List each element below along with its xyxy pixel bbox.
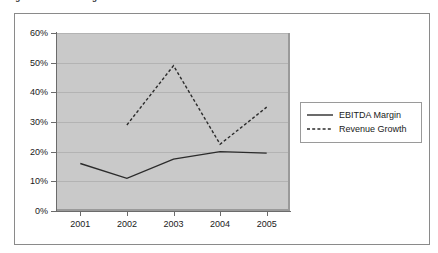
y-axis-tick [51,33,56,34]
legend-item-label: Revenue Growth [339,124,407,134]
chart-series [57,33,290,211]
x-axis-tick-label: 2005 [257,219,277,229]
x-axis-tick-label: 2003 [163,219,183,229]
legend-item[interactable]: Revenue Growth [307,122,415,136]
x-axis-tick [220,212,221,216]
y-axis-tick-label: 60% [2,28,48,38]
legend-item-label: EBITDA Margin [339,110,401,120]
legend-line-swatch-icon [307,110,333,120]
y-axis-tick [51,122,56,123]
y-axis-tick [51,181,56,182]
y-axis-tick-label: 50% [2,58,48,68]
y-axis-tick-label: 0% [2,206,48,216]
y-axis-tick-label: 20% [2,147,48,157]
series-line-revenue-growth [127,66,267,145]
legend-line-swatch-icon [307,124,333,134]
x-axis-tick [80,212,81,216]
x-axis-tick-label: 2004 [210,219,230,229]
x-axis-tick [174,212,175,216]
chart-legend: EBITDA MarginRevenue Growth [300,102,422,143]
x-axis-tick-label: 2001 [70,219,90,229]
x-axis-tick [127,212,128,216]
y-axis-tick [51,152,56,153]
y-axis-tick-label: 40% [2,87,48,97]
y-axis-tick [51,92,56,93]
x-axis-tick [267,212,268,216]
y-axis-tick-label: 10% [2,176,48,186]
y-axis-tick [51,63,56,64]
y-axis-tick [51,211,56,212]
series-line-ebitda-margin [80,152,266,179]
y-axis-labels: 0%10%20%30%40%50%60% [0,0,48,253]
y-axis-tick-label: 30% [2,117,48,127]
legend-item[interactable]: EBITDA Margin [307,108,415,122]
x-axis-tick-label: 2002 [117,219,137,229]
